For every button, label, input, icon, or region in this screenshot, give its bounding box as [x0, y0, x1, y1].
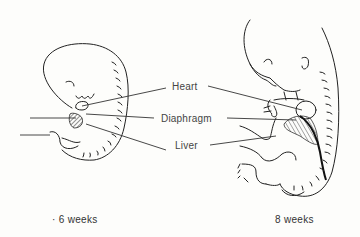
label-heart: Heart — [172, 82, 197, 92]
caption-8-weeks: 8 weeks — [275, 215, 314, 225]
label-diaphragm: Diaphragm — [161, 114, 212, 124]
leader-lines-right — [208, 86, 302, 145]
caption-6-weeks: · 6 weeks — [52, 215, 98, 225]
label-liver: Liver — [175, 141, 198, 151]
embryo-8-weeks — [238, 20, 339, 196]
embryo-6-weeks — [43, 44, 128, 161]
leader-lines-left — [20, 88, 166, 150]
